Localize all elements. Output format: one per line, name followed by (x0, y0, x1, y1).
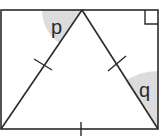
rectangle (1, 10, 158, 129)
angle-q-label: q (139, 79, 150, 101)
geometry-diagram: p q (0, 0, 165, 136)
tick-mark-right-side (108, 56, 126, 71)
right-angle-marker (145, 10, 158, 24)
triangle-left-side (1, 10, 82, 129)
diagram-canvas: p q (0, 0, 165, 136)
triangle-right-side (82, 10, 158, 129)
angle-p-label: p (51, 16, 62, 38)
